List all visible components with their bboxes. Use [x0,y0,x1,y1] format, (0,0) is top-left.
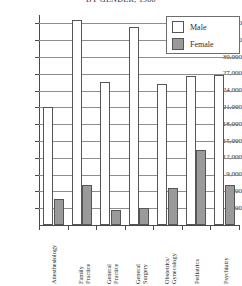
legend-swatch-female-icon [172,38,184,50]
x-category-label-line: Practice [84,228,91,284]
bar-female [111,210,121,225]
legend-swatch-male-icon [172,21,184,33]
x-category-label-line: Surgery [142,228,149,284]
bar-group [100,15,121,225]
x-tick-mark [153,226,154,230]
bar-female [82,185,92,225]
bar-male [214,75,224,225]
chart-title: BY GENDER, 1988 [0,0,242,4]
x-category-label: GeneralSurgery [135,228,145,284]
x-category-label: Anesthesiology [51,228,61,284]
bar-group [43,15,64,225]
bar-male [43,107,53,225]
x-category-label: Pediatrics [194,228,204,284]
x-tick-mark [96,226,97,230]
bar-female [168,188,178,225]
bar-male [129,27,139,225]
x-tick-mark [68,226,69,230]
x-category-label: FamilyPractice [78,228,88,284]
legend-item-male: Male [172,20,206,34]
legend-item-female: Female [172,37,214,51]
x-category-label-line: Psychiatry [223,228,230,284]
bar-female [54,199,64,225]
bar-chart: BY GENDER, 1988 3,0006,0009,00012,00015,… [0,0,242,286]
x-category-label: GeneralPractice [106,228,116,284]
bar-male [72,20,82,225]
bar-female [139,208,149,225]
x-tick-mark [239,226,240,230]
bar-female [225,185,235,225]
bar-male [100,82,110,225]
x-category-label: Obstetrics/Gynecology [164,228,174,284]
bar-female [196,150,206,225]
x-tick-mark [210,226,211,230]
x-tick-mark [125,226,126,230]
legend-label-female: Female [190,40,214,49]
x-category-label: Psychiatry [223,228,233,284]
x-tick-mark [39,226,40,230]
x-category-label-line: Practice [113,228,120,284]
x-category-label-line: Gynecology [170,228,177,284]
x-category-label-line: Pediatrics [194,228,201,284]
bar-male [186,76,196,225]
legend: Male Female [166,16,240,54]
bar-group [129,15,150,225]
bar-male [157,84,167,225]
legend-label-male: Male [190,23,206,32]
x-category-label-line: Anesthesiology [51,228,58,284]
x-tick-mark [182,226,183,230]
bar-group [72,15,93,225]
